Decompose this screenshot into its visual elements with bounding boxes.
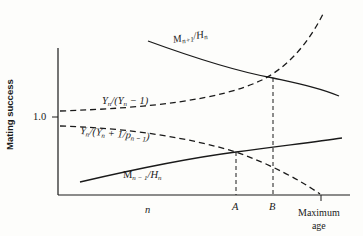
max-age-line2: age	[298, 220, 340, 233]
x-label-a: A	[232, 202, 238, 213]
label-y-over-y-minus-1: Yn/(Yn − 1)	[102, 96, 148, 108]
curve-y-over-y-minus-1	[60, 14, 323, 111]
x-label-n: n	[145, 205, 150, 216]
x-label-maximum-age: Maximum age	[298, 207, 340, 232]
y-tick-label: 1.0	[33, 111, 46, 122]
max-age-line1: Maximum	[298, 207, 340, 220]
y-axis-label: Mating success	[4, 79, 15, 150]
x-label-b: B	[269, 202, 275, 213]
label-m-minus-over-h: Mn − 1/Hn	[123, 170, 162, 182]
